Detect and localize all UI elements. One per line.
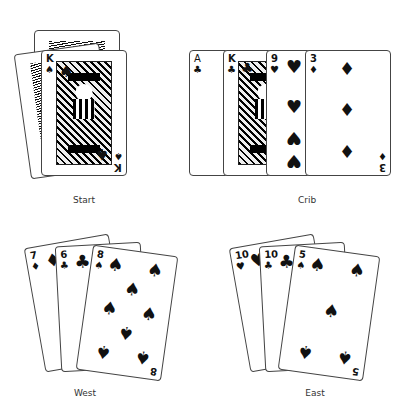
card-rank: 3 [379, 162, 386, 172]
spade-icon: ♠ [100, 298, 118, 318]
heart-icon: ♥ [270, 65, 279, 75]
spade-icon: ♠ [348, 260, 366, 280]
club-icon: ♣ [60, 261, 69, 271]
card-rank: K [114, 162, 122, 172]
zone-label-west: West [45, 388, 125, 398]
spade-icon: ♠ [94, 342, 112, 362]
diamond-icon: ♦ [339, 101, 355, 119]
card-crib-3-diamonds[interactable]: 3 ♦ ♦ ♦ ♦ ♦ 3 [305, 50, 391, 176]
spade-icon: ♠ [146, 260, 164, 280]
card-rank: A [194, 54, 201, 64]
card-west-8-spades[interactable]: 8 ♠ ♠ ♠ ♠ ♠ ♠ ♠ ♠ ♠ 8 [76, 245, 179, 382]
spade-icon: ♠ [59, 62, 73, 81]
diamond-icon: ♦ [339, 143, 355, 161]
crib-zone: A ♣ K ♣ ♣ 9 ♥ ♥ ♥ ♥ ♥ 3 ♦ ♦ ♦ ♦ ♦ 3 Crib [206, 0, 413, 210]
spade-icon: ♠ [296, 260, 306, 271]
diamond-icon: ♦ [309, 65, 318, 75]
spade-icon: ♠ [95, 145, 109, 164]
diamond-icon: ♦ [339, 60, 355, 78]
card-rank: 5 [352, 366, 360, 377]
heart-icon: ♥ [286, 129, 302, 147]
west-zone: 7 ♦ ♦ 6 ♣ ♣ 8 ♠ ♠ ♠ ♠ ♠ ♠ ♠ ♠ ♠ 8 West [0, 210, 206, 414]
spade-icon: ♠ [94, 260, 104, 271]
club-icon: ♣ [241, 60, 254, 76]
east-zone: 10 ♥ ♥ 10 ♣ ♣ 5 ♠ ♠ ♠ ♠ ♠ ♠ 5 East [206, 210, 413, 414]
spade-icon: ♠ [114, 151, 123, 161]
card-rank: K [228, 54, 236, 64]
spade-icon: ♠ [123, 279, 141, 299]
card-rank: 3 [310, 54, 317, 64]
spade-icon: ♠ [140, 304, 158, 324]
spade-icon: ♠ [308, 255, 326, 275]
spade-icon: ♠ [117, 323, 135, 343]
card-rank: 8 [150, 366, 158, 377]
zone-label-crib: Crib [267, 195, 347, 205]
spade-icon: ♠ [45, 65, 54, 75]
heart-icon: ♥ [286, 152, 302, 170]
club-icon: ♣ [74, 252, 91, 271]
heart-icon: ♥ [286, 58, 302, 76]
diamond-icon: ♦ [378, 151, 387, 161]
club-icon: ♣ [193, 65, 202, 75]
card-rank: 9 [271, 54, 278, 64]
card-start-k-spades[interactable]: K ♠ ♠ ♠ ♠ K [41, 50, 127, 176]
king-face-image: ♠ ♠ [56, 61, 112, 165]
club-icon: ♣ [227, 65, 236, 75]
zone-label-east: East [275, 388, 355, 398]
card-rank: K [46, 54, 54, 64]
card-rank: 10 [264, 249, 278, 260]
spade-icon: ♠ [134, 348, 152, 368]
club-icon: ♣ [264, 261, 273, 271]
start-zone: K ♠ ♠ ♠ ♠ K Start [0, 0, 206, 210]
zone-label-start: Start [44, 195, 124, 205]
spade-icon: ♠ [322, 301, 340, 321]
card-rank: 6 [60, 250, 67, 260]
spade-icon: ♠ [296, 342, 314, 362]
card-east-5-spades[interactable]: 5 ♠ ♠ ♠ ♠ ♠ ♠ 5 [278, 245, 381, 382]
spade-icon: ♠ [106, 255, 124, 275]
spade-icon: ♠ [336, 348, 354, 368]
diamond-icon: ♦ [30, 261, 41, 272]
heart-icon: ♥ [235, 261, 246, 272]
heart-icon: ♥ [286, 98, 302, 116]
